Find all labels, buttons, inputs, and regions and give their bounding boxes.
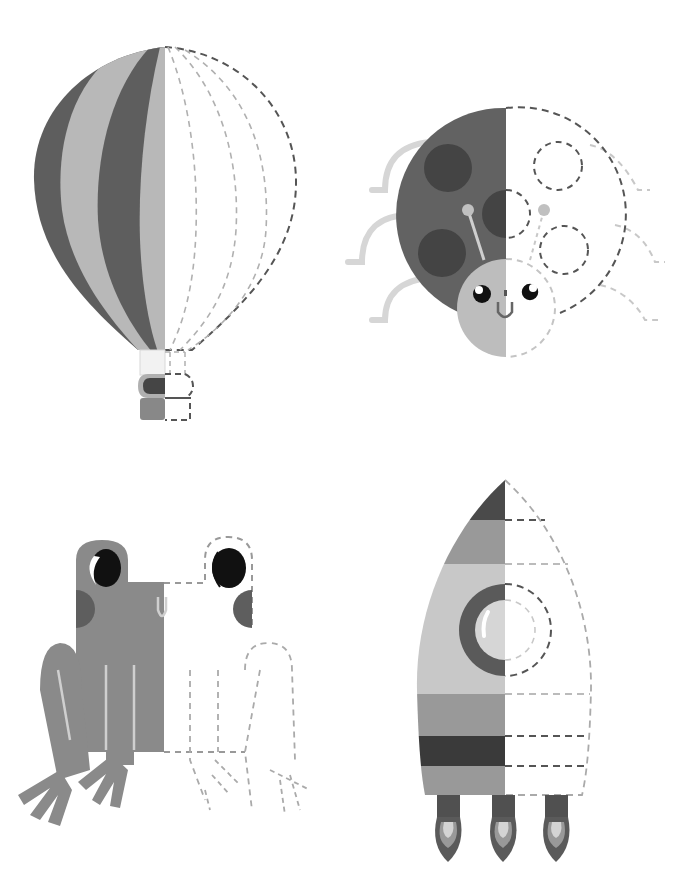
frog xyxy=(18,537,310,826)
ladybug xyxy=(348,107,665,357)
rocket xyxy=(410,478,591,862)
thrusters xyxy=(435,795,569,862)
worksheet-canvas xyxy=(0,0,675,880)
hot-air-balloon xyxy=(20,40,296,420)
